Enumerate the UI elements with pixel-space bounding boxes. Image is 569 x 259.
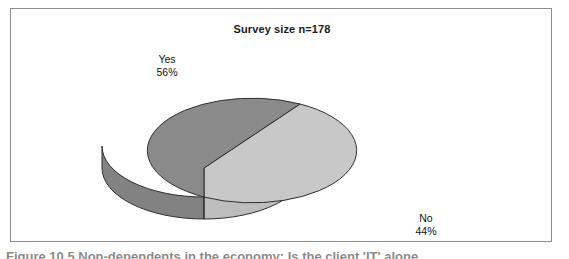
figure-caption: Figure 10.5 Non-dependents in the econom… (6, 249, 566, 259)
chart-panel: Survey size n=178 Yes 56% No 44% (10, 8, 552, 242)
pie-label-yes-percent: 56% (137, 66, 197, 79)
pie-label-no-percent: 44% (396, 225, 456, 238)
figure-root: Survey size n=178 Yes 56% No 44% Figure … (0, 0, 569, 259)
pie-label-no: No 44% (396, 212, 456, 238)
pie-chart-3d (11, 9, 553, 243)
pie-label-no-name: No (396, 212, 456, 225)
pie-label-yes: Yes 56% (137, 53, 197, 79)
pie-label-yes-name: Yes (137, 53, 197, 66)
